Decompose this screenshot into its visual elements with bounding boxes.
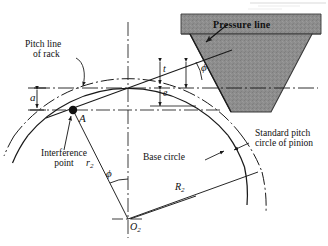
standard-pitch-line2: circle of pinion [255,138,313,148]
interference-point-line2: point [54,158,74,168]
radius-R2-subscript: 2 [181,186,185,194]
phi-angle-center [110,179,128,183]
radius-r2-label: r2 [86,158,93,171]
center-o2-label: O2 [130,222,141,235]
point-a-label: A [79,113,86,125]
gear-interference-diagram: Pitch line of rack Pressure line a t e ϕ… [0,0,328,246]
scan-artifact [248,3,326,9]
dimension-a-label: a [30,92,36,104]
base-circle-leader [205,151,224,160]
standard-pitch-circle-leader [234,143,249,150]
standard-pitch-line1: Standard pitch [255,128,310,138]
interference-point-line1: Interference [41,148,87,158]
radius-R2-label: R2 [175,182,185,195]
pitch-line-label-line1: Pitch line [25,39,61,49]
diagram-canvas [0,0,328,246]
center-o2-subscript: 2 [137,226,141,234]
dimension-t-label: t [163,64,166,75]
radius-R2-line [128,172,258,219]
pitch-line-leader [76,58,84,86]
pressure-line-label: Pressure line [213,20,271,31]
base-circle-label: Base circle [143,152,185,162]
dimension-e-label: e [163,88,167,99]
interference-point-label: Interference point [18,148,110,169]
standard-pitch-circle-label: Standard pitch circle of pinion [255,128,313,149]
pitch-line-label-line2: of rack [33,49,60,59]
phi-angle-top-label: ϕ [201,62,207,74]
radius-r2-subscript: 2 [90,162,94,170]
interference-point-A [69,106,77,114]
pitch-line-label: Pitch line of rack [25,39,61,60]
phi-angle-center-label: ϕ [106,168,112,180]
interference-point-leader [64,116,71,150]
